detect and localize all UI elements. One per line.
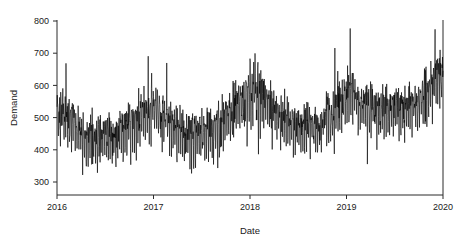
x-tick-label-2019: 2019 [336,202,356,212]
chart-figure: 300400500600700800 20162017201820192020 … [0,0,463,244]
y-tick-label-500: 500 [34,113,49,123]
y-tick-label-700: 700 [34,48,49,58]
y-tick-label-600: 600 [34,81,49,91]
y-tick-label-400: 400 [34,145,49,155]
demand-time-series-chart: 300400500600700800 20162017201820192020 … [0,0,463,244]
x-tick-label-2016: 2016 [47,202,67,212]
x-tick-label-2020: 2020 [433,202,453,212]
x-axis-title: Date [240,225,260,236]
x-tick-label-2017: 2017 [143,202,163,212]
y-tick-label-300: 300 [34,177,49,187]
y-tick-label-800: 800 [34,16,49,26]
x-tick-label-2018: 2018 [240,202,260,212]
y-axis-title: Demand [8,90,19,126]
